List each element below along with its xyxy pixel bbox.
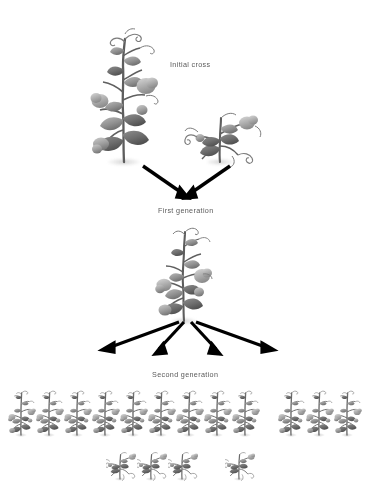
second-generation-tall-plant-9 — [232, 386, 260, 438]
second-generation-tall-plant-10 — [278, 386, 306, 438]
mendelian-inheritance-diagram: Initial cross First generation — [0, 0, 374, 496]
second-generation-dwarf-plant-4 — [225, 448, 255, 482]
label-first-generation: First generation — [158, 206, 214, 215]
second-generation-tall-plant-12 — [334, 386, 362, 438]
plant-first-generation-tall — [144, 222, 224, 326]
arrows-initial-to-first — [130, 160, 244, 204]
label-initial-cross: Initial cross — [170, 60, 211, 69]
second-generation-dwarf-plant-2 — [137, 448, 167, 482]
second-generation-tall-plant-3 — [64, 386, 92, 438]
arrows-first-to-second — [92, 318, 284, 358]
second-generation-dwarf-plant-3 — [168, 448, 198, 482]
second-generation-tall-plant-5 — [120, 386, 148, 438]
second-generation-tall-plant-2 — [36, 386, 64, 438]
plant-tall-parent — [78, 22, 174, 168]
second-generation-tall-plant-11 — [306, 386, 334, 438]
label-second-generation: Second generation — [152, 370, 218, 379]
second-generation-dwarf-plant-1 — [106, 448, 136, 482]
second-generation-tall-plant-1 — [8, 386, 36, 438]
second-generation-tall-plant-7 — [176, 386, 204, 438]
second-generation-tall-plant-4 — [92, 386, 120, 438]
second-generation-tall-plant-6 — [148, 386, 176, 438]
second-generation-tall-plant-8 — [204, 386, 232, 438]
plant-dwarf-parent — [176, 98, 268, 168]
